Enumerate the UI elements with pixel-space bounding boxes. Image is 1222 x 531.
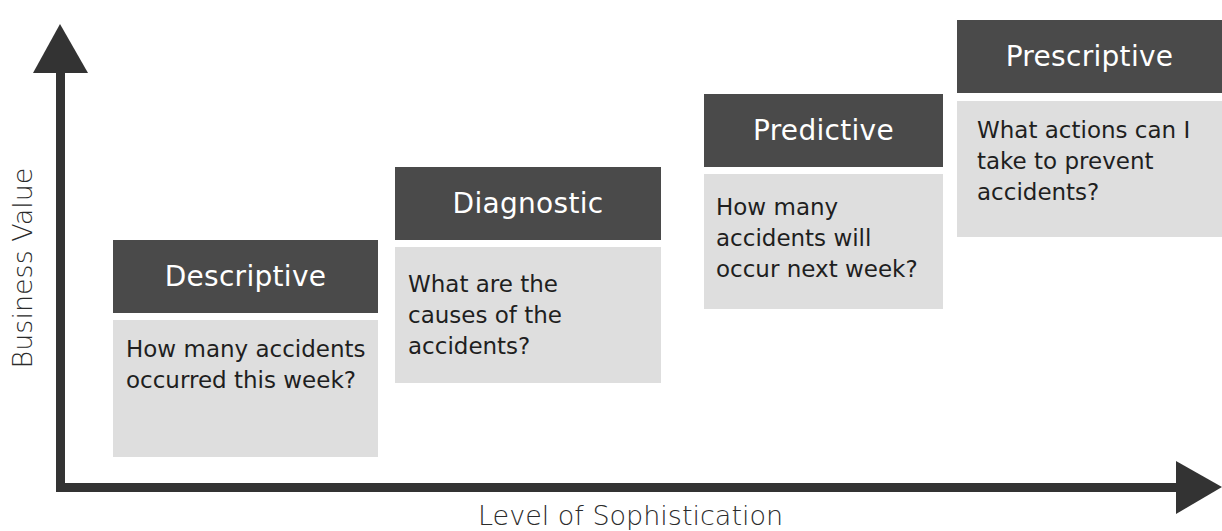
stage-question: What are the causes of the accidents? <box>395 247 661 383</box>
stage-predictive: Predictive How many accidents will occur… <box>704 94 943 310</box>
stage-title: Prescriptive <box>957 20 1222 93</box>
stage-question: How many accidents will occur next week? <box>704 174 943 309</box>
stage-question: How many accidents occurred this week? <box>113 320 378 457</box>
y-axis-label: Business Value <box>7 168 38 369</box>
stage-diagnostic: Diagnostic What are the causes of the ac… <box>395 167 661 384</box>
stage-prescriptive: Prescriptive What actions can I take to … <box>957 20 1222 238</box>
stage-descriptive: Descriptive How many accidents occurred … <box>113 240 378 458</box>
stage-title: Predictive <box>704 94 943 167</box>
stage-title: Diagnostic <box>395 167 661 240</box>
stage-title: Descriptive <box>113 240 378 313</box>
y-axis-arrow <box>33 24 88 492</box>
x-axis-label: Level of Sophistication <box>478 500 783 531</box>
stage-question: What actions can I take to prevent accid… <box>957 101 1222 237</box>
